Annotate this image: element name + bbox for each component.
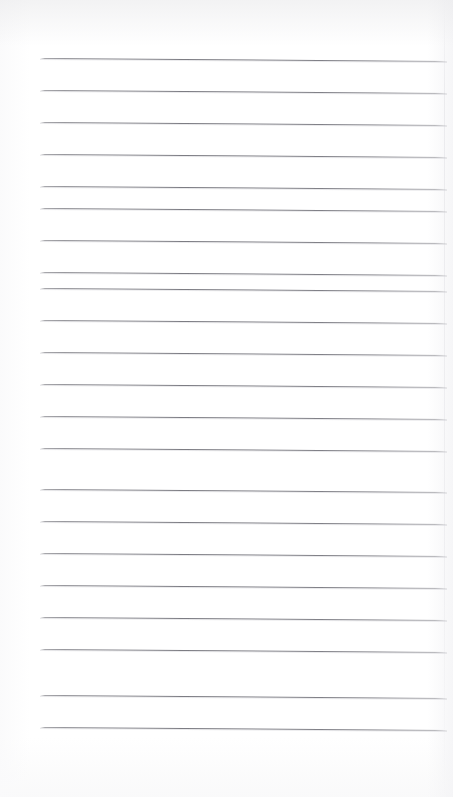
scanned-page	[0, 0, 453, 797]
writing-area[interactable]	[40, 58, 447, 728]
